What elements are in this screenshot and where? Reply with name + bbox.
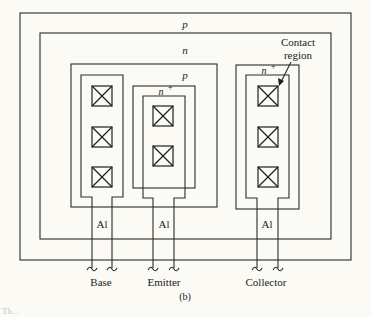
base-contact-icon [92, 86, 112, 106]
label-emitter-n: n [159, 86, 164, 97]
transistor-layout-diagram: p n p n + n + Contact region Al Al Al Ba… [0, 0, 371, 317]
terminal-collector: Collector [246, 276, 287, 288]
al-label-emitter: Al [159, 218, 170, 230]
terminal-emitter: Emitter [148, 276, 181, 288]
label-n: n [182, 44, 188, 56]
collector-contact-icon [258, 167, 278, 187]
emitter-contact-icon [153, 146, 173, 166]
subfigure-label: (b) [179, 291, 191, 303]
annotation-contact: Contact [281, 36, 315, 48]
partial-caption: Th... [2, 306, 19, 316]
label-inner-p: p [181, 69, 188, 81]
label-collector-plus: + [271, 62, 276, 71]
base-contact-icon [92, 167, 112, 187]
emitter-contact-icon [153, 106, 173, 126]
annotation-region: region [284, 49, 313, 61]
al-label-base: Al [97, 218, 108, 230]
emitter-n-plus-region [133, 86, 195, 188]
al-label-collector: Al [262, 218, 273, 230]
collector-contact-icon [258, 127, 278, 147]
label-outer-p: p [181, 18, 188, 30]
emitter-metal-strip [143, 96, 185, 268]
annotation-arrowhead [278, 78, 284, 86]
terminal-base: Base [90, 276, 112, 288]
collector-contact-icon [258, 86, 278, 106]
base-contact-icon [92, 127, 112, 147]
label-collector-n: n [262, 65, 267, 76]
label-emitter-plus: + [168, 83, 173, 92]
